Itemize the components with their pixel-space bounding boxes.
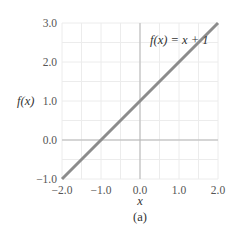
x-axis-label: x (136, 194, 143, 208)
x-tick-label: −1.0 (91, 184, 112, 196)
function-annotation: f(x) = x + 1 (150, 33, 209, 47)
figure-caption: (a) (133, 210, 147, 224)
y-tick-label: −1.0 (36, 173, 57, 185)
y-axis-label: f(x) (17, 94, 34, 108)
chart: −2.0−1.00.01.02.0−1.00.01.02.03.0 f(x) x… (0, 0, 237, 244)
y-tick-label: 1.0 (43, 95, 58, 107)
y-tick-label: 3.0 (43, 17, 58, 29)
y-tick-label: 0.0 (43, 134, 58, 146)
x-tick-label: −2.0 (52, 184, 73, 196)
y-tick-label: 2.0 (43, 56, 58, 68)
x-tick-label: 2.0 (211, 184, 226, 196)
x-tick-label: 1.0 (172, 184, 187, 196)
